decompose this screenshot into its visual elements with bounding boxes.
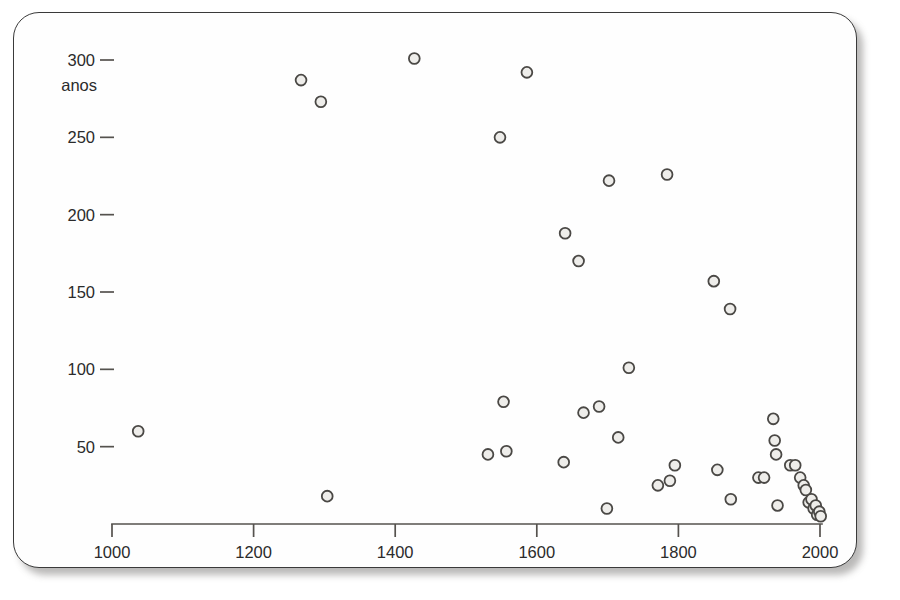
- data-point: [771, 449, 782, 460]
- data-point: [594, 401, 605, 412]
- data-point: [296, 75, 307, 86]
- y-axis: 50100150200250300: [67, 51, 114, 456]
- x-tick-label: 1800: [660, 543, 697, 561]
- data-point: [708, 276, 719, 287]
- data-point: [613, 432, 624, 443]
- x-tick-label: 1200: [235, 543, 272, 561]
- data-point: [669, 460, 680, 471]
- data-point: [521, 67, 532, 78]
- data-point: [573, 256, 584, 267]
- data-point: [665, 475, 676, 486]
- data-point: [725, 494, 736, 505]
- data-point: [315, 96, 326, 107]
- data-point: [409, 53, 420, 64]
- data-point: [133, 426, 144, 437]
- data-point: [495, 132, 506, 143]
- data-point: [759, 472, 770, 483]
- x-tick-label: 1600: [518, 543, 555, 561]
- data-point: [558, 457, 569, 468]
- data-point-layer: [133, 53, 826, 522]
- data-point: [578, 407, 589, 418]
- data-point: [560, 228, 571, 239]
- y-tick-label: 150: [67, 283, 95, 301]
- x-tick-label: 2000: [802, 543, 839, 561]
- x-tick-label: 1400: [377, 543, 414, 561]
- x-axis: 100012001400160018002000: [94, 524, 839, 561]
- data-point: [483, 449, 494, 460]
- data-point: [712, 464, 723, 475]
- scatter-plot: 50100150200250300 1000120014001600180020…: [0, 0, 900, 600]
- data-point: [662, 169, 673, 180]
- y-tick-label: 50: [77, 438, 95, 456]
- y-axis-unit-label: anos: [61, 76, 97, 94]
- data-point: [652, 480, 663, 491]
- data-point: [601, 503, 612, 514]
- y-tick-label: 250: [67, 128, 95, 146]
- data-point: [501, 446, 512, 457]
- y-tick-label: 100: [67, 360, 95, 378]
- data-point: [725, 304, 736, 315]
- data-point: [322, 491, 333, 502]
- data-point: [498, 396, 509, 407]
- data-point: [790, 460, 801, 471]
- data-point: [769, 435, 780, 446]
- data-point: [604, 175, 615, 186]
- scatter-plot-svg: 50100150200250300 1000120014001600180020…: [0, 0, 900, 600]
- y-tick-label: 200: [67, 206, 95, 224]
- data-point: [815, 511, 826, 522]
- y-tick-label: 300: [67, 51, 95, 69]
- data-point: [623, 362, 634, 373]
- data-point: [772, 500, 783, 511]
- x-tick-label: 1000: [94, 543, 131, 561]
- data-point: [768, 413, 779, 424]
